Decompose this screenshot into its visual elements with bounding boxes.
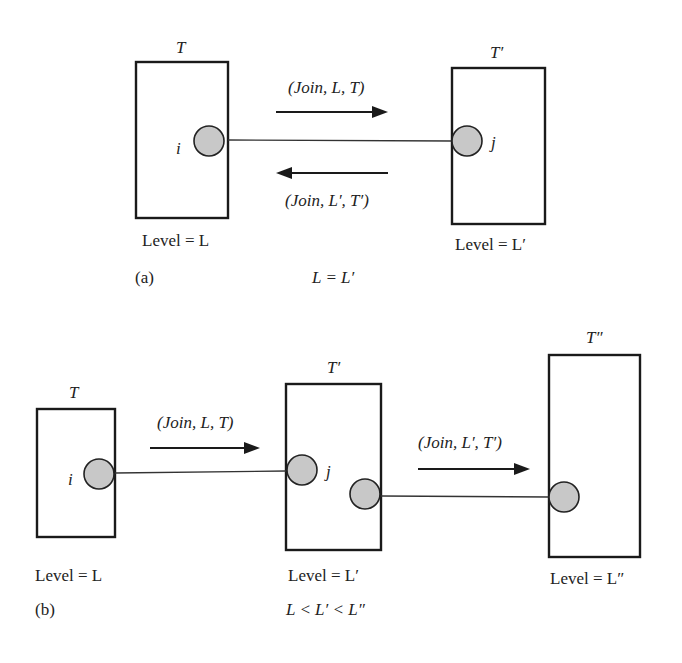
label-b-T: T bbox=[69, 383, 78, 403]
node-b-i bbox=[84, 459, 114, 489]
diagram-graphics bbox=[0, 0, 682, 663]
label-a-condition: L = L′ bbox=[312, 268, 354, 288]
label-a-tag: (a) bbox=[135, 268, 154, 288]
label-a-T: T bbox=[176, 38, 185, 58]
join-protocol-diagram: T T′ i j (Join, L, T) (Join, L′, T′) Lev… bbox=[0, 0, 682, 663]
label-b-T-dprime: T″ bbox=[586, 328, 603, 348]
link-a bbox=[228, 140, 452, 141]
label-b-condition: L < L′ < L″ bbox=[286, 600, 365, 620]
label-a-T-prime: T′ bbox=[490, 43, 503, 63]
label-b-j: j bbox=[326, 462, 331, 482]
label-b-tag: (b) bbox=[35, 600, 55, 620]
arrowhead-a-back bbox=[276, 167, 292, 179]
label-a-msg-back: (Join, L′, T′) bbox=[285, 191, 369, 211]
label-b-T-prime: T′ bbox=[327, 358, 340, 378]
label-a-i: i bbox=[176, 139, 181, 159]
label-b-msg1: (Join, L, T) bbox=[157, 413, 234, 433]
node-a-j bbox=[452, 126, 482, 156]
node-b-out bbox=[350, 479, 380, 509]
label-a-level-L-prime: Level = L′ bbox=[455, 235, 526, 255]
box-b-T-dprime bbox=[549, 355, 640, 557]
arrowhead-a-forward bbox=[372, 106, 388, 118]
label-b-level-L-dprime: Level = L″ bbox=[550, 569, 624, 589]
link-b-2 bbox=[381, 496, 549, 497]
label-b-msg2: (Join, L′, T′) bbox=[418, 433, 502, 453]
label-b-i: i bbox=[68, 470, 73, 490]
node-b-j bbox=[287, 455, 317, 485]
arrowhead-b-1 bbox=[244, 442, 260, 454]
node-b-in bbox=[549, 482, 579, 512]
label-b-level-L-prime: Level = L′ bbox=[288, 566, 359, 586]
label-b-level-L: Level = L bbox=[35, 566, 102, 586]
label-a-j: j bbox=[491, 133, 496, 153]
arrowhead-b-2 bbox=[514, 463, 530, 475]
node-a-i bbox=[194, 126, 224, 156]
link-b-1 bbox=[115, 471, 286, 473]
label-a-msg-forward: (Join, L, T) bbox=[288, 78, 365, 98]
label-a-level-L: Level = L bbox=[142, 231, 209, 251]
